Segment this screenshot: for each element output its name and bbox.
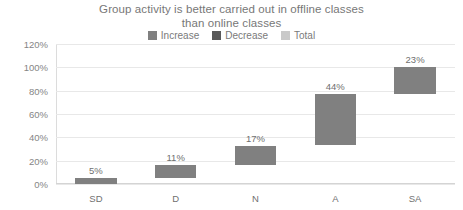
gridline (56, 184, 455, 185)
x-axis: SDDNASA (56, 188, 455, 208)
y-axis-tick-label: 80% (29, 85, 48, 96)
bar-n[interactable] (235, 146, 276, 166)
bar-value-label: 17% (246, 133, 265, 144)
gridline (56, 44, 455, 45)
chart-title: Group activity is better carried out in … (0, 3, 463, 30)
x-axis-tick-label: SA (409, 193, 422, 204)
bar-sd[interactable] (75, 178, 116, 184)
legend-item-increase[interactable]: Increase (148, 30, 199, 41)
legend-item-decrease[interactable]: Decrease (212, 30, 268, 41)
bar-a[interactable] (315, 94, 356, 145)
x-axis-tick-label: N (252, 193, 259, 204)
chart-title-line-2: than online classes (0, 17, 463, 31)
legend-item-total[interactable]: Total (281, 30, 315, 41)
y-axis-tick-label: 60% (29, 109, 48, 120)
chart-legend: Increase Decrease Total (0, 30, 463, 41)
y-axis-tick-label: 120% (24, 39, 48, 50)
bar-value-label: 23% (406, 54, 425, 65)
y-axis-tick-label: 40% (29, 132, 48, 143)
legend-swatch-increase (148, 31, 157, 40)
x-axis-tick-label: A (332, 193, 338, 204)
y-axis: 0%20%40%60%80%100%120% (0, 44, 52, 184)
plot-wrapper: 0%20%40%60%80%100%120% 5%11%17%44%23% SD… (0, 44, 463, 210)
bar-value-label: 5% (89, 165, 103, 176)
legend-swatch-decrease (212, 31, 221, 40)
waterfall-chart: Group activity is better carried out in … (0, 0, 463, 210)
plot-area: 5%11%17%44%23% (56, 44, 455, 184)
bar-sa[interactable] (394, 67, 435, 94)
bar-value-label: 11% (167, 152, 185, 163)
y-axis-tick-label: 0% (34, 179, 48, 190)
gridline (56, 114, 455, 115)
chart-title-line-1: Group activity is better carried out in … (0, 3, 463, 17)
x-axis-tick-label: D (172, 193, 179, 204)
legend-label-increase: Increase (161, 30, 199, 41)
legend-label-decrease: Decrease (225, 30, 268, 41)
y-axis-tick-label: 20% (29, 155, 48, 166)
legend-swatch-total (281, 31, 290, 40)
legend-label-total: Total (294, 30, 315, 41)
y-axis-tick-label: 100% (24, 62, 48, 73)
bar-d[interactable] (155, 165, 196, 178)
bar-value-label: 44% (326, 81, 345, 92)
x-axis-tick-label: SD (89, 193, 102, 204)
